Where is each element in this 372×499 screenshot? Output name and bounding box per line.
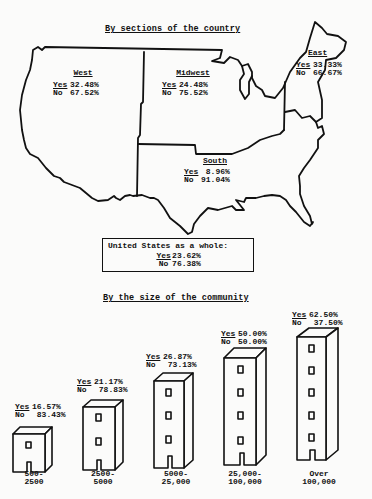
community-stat-2500-5000: Yes21.17% No 78.83% — [77, 378, 128, 394]
community-stat-25000-100000: Yes50.00% No50.00% — [221, 330, 267, 346]
no-stat: No 73.13% — [146, 361, 197, 369]
community-label-2500-5000: 2500-5000 — [81, 470, 125, 486]
building-5000-25000 — [154, 373, 193, 468]
community-stat-500-2500: Yes16.57% No 83.43% — [15, 403, 66, 419]
no-stat: No 83.43% — [15, 411, 66, 419]
community-label-over-100000: Over100,000 — [294, 470, 344, 486]
no-stat: No50.00% — [221, 338, 267, 346]
community-stat-over-100000: Yes62.50% No 37.50% — [292, 311, 343, 327]
building-2500-5000 — [83, 400, 123, 470]
community-label-25000-100000: 25,000-100,000 — [216, 470, 274, 486]
no-stat: No 78.83% — [77, 386, 128, 394]
community-label-500-2500: 500-2500 — [14, 470, 54, 486]
community-label-5000-25000: 5000-25,000 — [152, 470, 200, 486]
no-stat: No 37.50% — [292, 319, 343, 327]
building-over-100000 — [297, 328, 338, 460]
building-pictograph — [0, 0, 372, 499]
building-25000-100000 — [224, 348, 266, 465]
community-stat-5000-25000: Yes26.87% No 73.13% — [146, 353, 197, 369]
building-500-2500 — [13, 427, 52, 472]
